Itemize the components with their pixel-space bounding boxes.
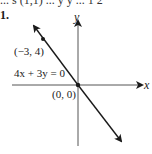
- point-origin: [76, 83, 80, 87]
- y-axis-label: y: [74, 10, 79, 25]
- equation-label: 4x + 3y = 0: [14, 67, 65, 79]
- graph-line: [78, 85, 121, 141]
- origin-label: (0, 0): [52, 88, 76, 100]
- point-neg3-4: [41, 37, 45, 41]
- x-axis-label: x: [144, 78, 149, 93]
- point-label-neg3-4: (−3, 4): [14, 45, 44, 57]
